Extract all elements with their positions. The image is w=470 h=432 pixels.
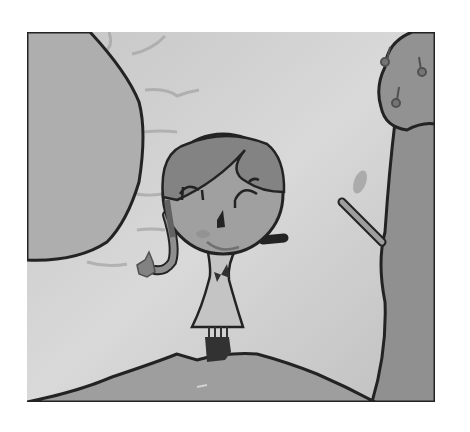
drawing-frame: Child's drawing of a smiling girl standi… bbox=[27, 32, 435, 402]
drawing-canvas bbox=[27, 32, 435, 402]
